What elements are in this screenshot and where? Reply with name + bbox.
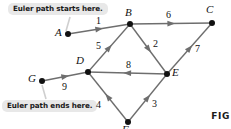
vertex-dot-B [127,21,133,27]
euler-path-figure: Euler path starts here. Euler path ends … [0,0,231,129]
edge-label-6: 6 [166,9,171,20]
callout-euler-path-end: Euler path ends here. [2,100,97,112]
vertex-label-A: A [55,26,62,38]
vertex-dot-C [209,20,215,26]
callout-leader-end [42,85,46,99]
edge-label-7: 7 [195,43,200,54]
vertex-dot-E [164,71,170,77]
edge-8-arrowhead [123,70,131,76]
figure-caption: FIG [211,111,230,121]
edge-label-5: 5 [96,40,101,51]
vertex-dot-D [85,69,91,75]
vertex-label-G: G [28,72,36,84]
edge-label-2: 2 [153,38,158,49]
edge-label-4: 4 [96,99,101,110]
edge-label-9: 9 [62,81,67,92]
edge-label-1: 1 [96,15,101,26]
edge-6-arrowhead [167,21,175,27]
callout-leader-start [66,17,70,31]
vertex-label-C: C [206,3,213,15]
vertex-dot-G [39,78,45,84]
edge-label-3: 3 [152,98,157,109]
vertex-label-D: D [76,54,84,66]
vertex-label-F: F [122,123,129,129]
callout-euler-path-start: Euler path starts here. [8,3,108,15]
vertex-label-E: E [172,66,179,78]
vertex-label-B: B [125,6,132,18]
vertex-dot-A [65,31,71,37]
edge-label-8: 8 [126,59,131,70]
